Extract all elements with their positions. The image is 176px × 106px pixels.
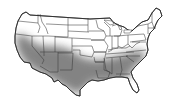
us-range-map xyxy=(0,0,176,106)
us-map-svg xyxy=(0,0,176,106)
